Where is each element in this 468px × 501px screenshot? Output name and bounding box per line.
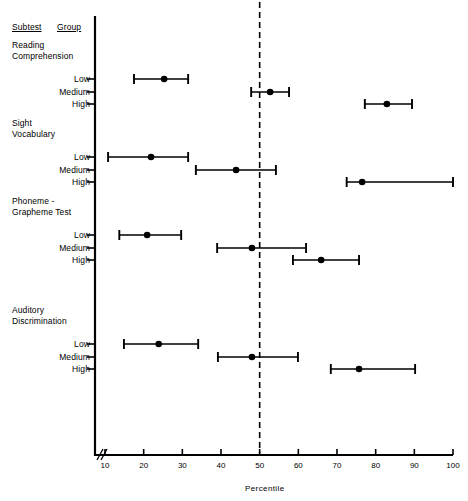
- x-tick-label: 60: [284, 461, 312, 470]
- x-tick-label: 100: [439, 461, 467, 470]
- group-label-low: Low: [74, 230, 90, 240]
- error-bar-row: [347, 177, 453, 187]
- error-bar-row: [217, 243, 306, 253]
- x-tick-label: 70: [323, 461, 351, 470]
- data-point-marker: [144, 232, 151, 239]
- x-tick-label: 20: [130, 461, 158, 470]
- subtest-label: Vocabulary: [12, 129, 55, 139]
- error-bar-row: [331, 364, 415, 374]
- x-tick-label: 40: [207, 461, 235, 470]
- data-point-marker: [384, 101, 391, 108]
- data-point-marker: [249, 354, 256, 361]
- subtest-label: Grapheme Test: [12, 207, 71, 217]
- error-bar-row: [365, 99, 412, 109]
- data-point-marker: [359, 179, 366, 186]
- x-tick-label: 10: [91, 461, 119, 470]
- error-bar-row: [293, 255, 359, 265]
- data-point-marker: [161, 76, 168, 83]
- x-tick-label: 50: [246, 461, 274, 470]
- group-label-high: High: [72, 99, 90, 109]
- error-bar-row: [124, 339, 198, 349]
- error-bar-row: [108, 152, 188, 162]
- subtest-label: Discrimination: [12, 316, 67, 326]
- data-point-marker: [148, 154, 155, 161]
- group-label-high: High: [72, 177, 90, 187]
- x-tick-label: 30: [168, 461, 196, 470]
- error-bar-row: [134, 74, 188, 84]
- forest-plot-chart: Subtest Group ReadingComprehensionLowMed…: [0, 0, 468, 501]
- x-tick-label: 90: [400, 461, 428, 470]
- x-tick-label: 80: [362, 461, 390, 470]
- x-axis-title: Percentile: [245, 484, 285, 494]
- group-label-high: High: [72, 255, 90, 265]
- data-point-marker: [356, 366, 363, 373]
- subtest-label: Phoneme -: [12, 196, 54, 206]
- group-label-high: High: [72, 364, 90, 374]
- error-bar-row: [119, 230, 181, 240]
- subtest-label: Comprehension: [12, 51, 73, 61]
- group-label-medium: Medium: [59, 243, 90, 253]
- error-bar-row: [251, 87, 289, 97]
- data-point-marker: [233, 167, 240, 174]
- data-point-marker: [155, 341, 162, 348]
- group-label-medium: Medium: [59, 165, 90, 175]
- error-bar-row: [196, 165, 276, 175]
- group-label-low: Low: [74, 339, 90, 349]
- subtest-label: Auditory: [12, 305, 44, 315]
- group-label-medium: Medium: [59, 352, 90, 362]
- x-axis-line: [95, 443, 453, 455]
- data-point-marker: [318, 257, 325, 264]
- data-point-marker: [267, 89, 274, 96]
- subtest-label: Sight: [12, 118, 32, 128]
- data-point-marker: [249, 245, 256, 252]
- error-bar-row: [218, 352, 298, 362]
- group-label-low: Low: [74, 74, 90, 84]
- group-label-medium: Medium: [59, 87, 90, 97]
- group-label-low: Low: [74, 152, 90, 162]
- subtest-label: Reading: [12, 40, 44, 50]
